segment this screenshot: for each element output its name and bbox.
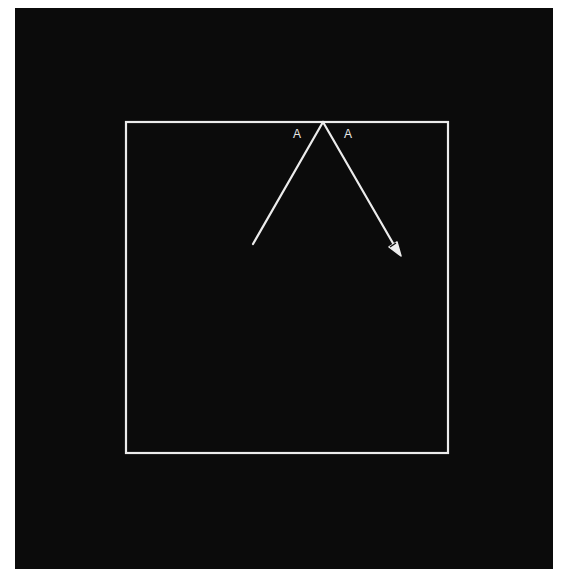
incident-ray xyxy=(253,122,323,244)
angle-label-right: A xyxy=(344,127,352,141)
angle-label-left: A xyxy=(293,127,301,141)
reflection-diagram: A A xyxy=(0,0,566,577)
mirror-box xyxy=(126,122,448,453)
reflected-ray xyxy=(323,122,394,245)
